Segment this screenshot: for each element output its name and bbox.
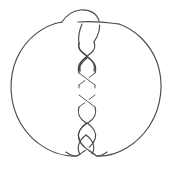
knot-diagram-svg [0,0,172,171]
knot-diagram-figure: Knot diagram A single closed curve formi… [0,0,172,171]
figure-background [0,0,172,171]
